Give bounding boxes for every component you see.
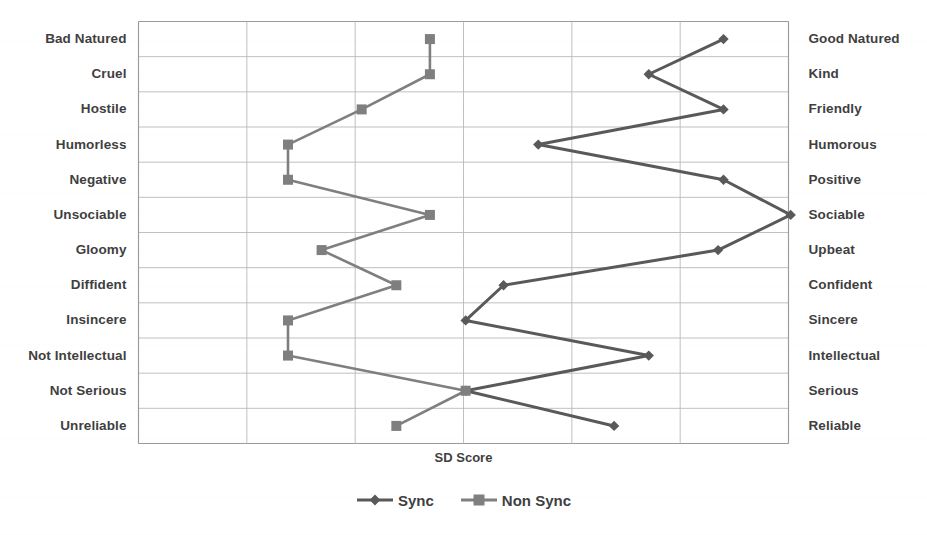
legend-item-non-sync[interactable]: Non Sync bbox=[460, 492, 571, 508]
legend-label: Non Sync bbox=[502, 493, 571, 508]
data-point-square[interactable] bbox=[283, 351, 293, 361]
legend-square-icon bbox=[460, 492, 498, 508]
x-axis-title: SD Score bbox=[0, 450, 927, 465]
data-point-square[interactable] bbox=[357, 104, 367, 114]
data-point-square[interactable] bbox=[391, 421, 401, 431]
data-point-square[interactable] bbox=[283, 315, 293, 325]
data-point-square[interactable] bbox=[425, 69, 435, 79]
data-point-diamond[interactable] bbox=[533, 139, 543, 149]
data-point-square[interactable] bbox=[391, 280, 401, 290]
data-point-diamond[interactable] bbox=[644, 350, 654, 360]
data-point-square[interactable] bbox=[283, 175, 293, 185]
data-point-square[interactable] bbox=[461, 386, 471, 396]
legend-diamond-icon bbox=[356, 492, 394, 508]
data-point-diamond[interactable] bbox=[644, 69, 654, 79]
data-point-square[interactable] bbox=[425, 210, 435, 220]
data-point-diamond[interactable] bbox=[609, 421, 619, 431]
sd-profile-chart: Bad NaturedCruelHostileHumorlessNegative… bbox=[0, 0, 927, 535]
data-point-diamond[interactable] bbox=[785, 210, 795, 220]
data-point-diamond[interactable] bbox=[718, 104, 728, 114]
data-point-diamond[interactable] bbox=[718, 175, 728, 185]
legend-label: Sync bbox=[398, 493, 434, 508]
grid-lines bbox=[139, 22, 789, 444]
data-point-diamond[interactable] bbox=[713, 245, 723, 255]
data-point-square[interactable] bbox=[317, 245, 327, 255]
data-point-diamond[interactable] bbox=[718, 34, 728, 44]
data-point-square[interactable] bbox=[283, 140, 293, 150]
data-point-square[interactable] bbox=[425, 34, 435, 44]
chart-legend: SyncNon Sync bbox=[0, 492, 927, 508]
legend-item-sync[interactable]: Sync bbox=[356, 492, 434, 508]
